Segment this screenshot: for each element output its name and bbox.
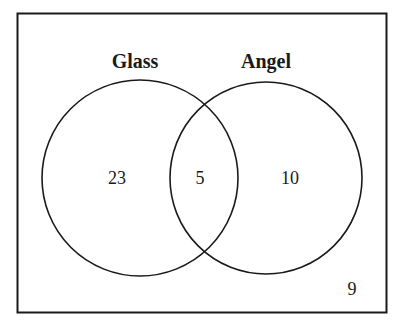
- universal-set-box: [18, 14, 387, 313]
- intersection-count: 5: [196, 168, 205, 188]
- glass-label: Glass: [112, 50, 159, 72]
- glass-only-count: 23: [108, 168, 126, 188]
- glass-circle: [42, 80, 238, 276]
- angel-only-count: 10: [281, 168, 299, 188]
- outside-count: 9: [348, 279, 357, 299]
- venn-diagram: Glass Angel 23 5 10 9: [0, 0, 406, 328]
- angel-label: Angel: [241, 50, 291, 73]
